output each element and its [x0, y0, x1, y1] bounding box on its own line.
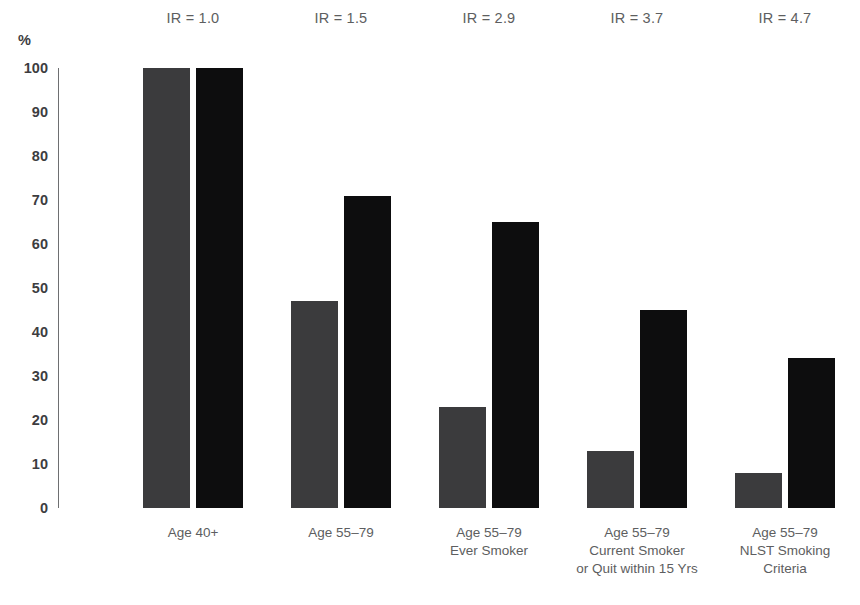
- x-axis-category-label: Age 55–79NLST SmokingCriteria: [690, 524, 860, 578]
- category-label-line: Criteria: [690, 560, 860, 578]
- bar: [196, 68, 243, 508]
- bar: [788, 358, 835, 508]
- bar: [439, 407, 486, 508]
- bar-chart: IR = 1.0IR = 1.5IR = 2.9IR = 3.7IR = 4.7…: [0, 0, 860, 605]
- plot-area: [0, 0, 860, 605]
- bar: [640, 310, 687, 508]
- bar: [735, 473, 782, 508]
- category-label-line: NLST Smoking: [690, 542, 860, 560]
- bar: [143, 68, 190, 508]
- category-label-line: Age 55–79: [690, 524, 860, 542]
- bar: [344, 196, 391, 508]
- bar: [291, 301, 338, 508]
- bar: [492, 222, 539, 508]
- bar: [587, 451, 634, 508]
